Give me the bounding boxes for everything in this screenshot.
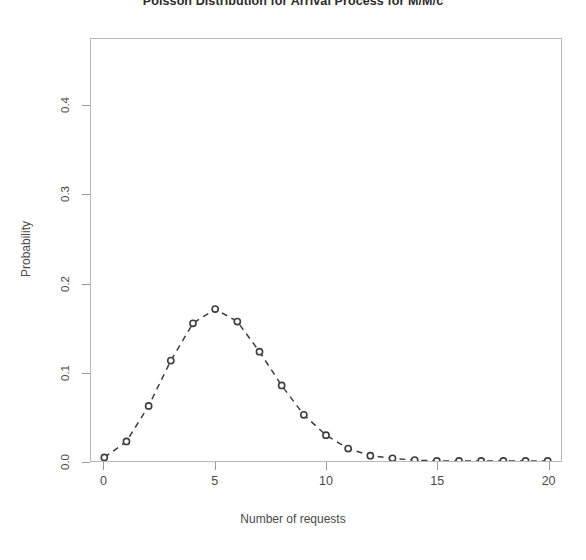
y-axis-tick-mark <box>82 284 90 285</box>
x-axis-tick-mark <box>437 462 438 470</box>
x-axis-tick-mark <box>549 462 550 470</box>
poisson-series-points <box>101 306 551 461</box>
data-point <box>234 318 240 324</box>
y-axis-tick-label: 0.4 <box>52 97 78 113</box>
y-axis-tick-mark <box>82 373 90 374</box>
data-point <box>101 454 107 460</box>
data-point <box>434 458 440 461</box>
x-axis-label: Number of requests <box>0 512 586 526</box>
data-point <box>123 438 129 444</box>
data-point <box>545 458 551 461</box>
x-axis-tick-mark <box>215 462 216 470</box>
data-point <box>301 412 307 418</box>
x-axis-tick-mark <box>103 462 104 470</box>
y-axis-tick-label: 0.3 <box>52 186 78 202</box>
data-point <box>146 403 152 409</box>
poisson-distribution-chart: Poisson Distribution for Arrival Process… <box>0 0 586 560</box>
x-axis-tick-label: 15 <box>417 474 457 488</box>
x-axis-tick-label: 0 <box>83 474 123 488</box>
y-axis-tick-label: 0.2 <box>52 276 78 292</box>
y-axis-tick-mark <box>82 105 90 106</box>
y-axis-label-wrapper: Probability <box>12 0 40 560</box>
y-axis-tick-label: 0.1 <box>52 365 78 381</box>
x-axis-tick-label: 10 <box>306 474 346 488</box>
y-axis-tick-mark <box>82 462 90 463</box>
x-axis-tick-mark <box>326 462 327 470</box>
data-point <box>412 457 418 461</box>
plot-area-svg <box>91 39 561 461</box>
data-point <box>168 358 174 364</box>
x-axis-tick-label: 5 <box>195 474 235 488</box>
data-point <box>500 458 506 461</box>
data-point <box>456 458 462 461</box>
x-axis-tick-label: 20 <box>529 474 569 488</box>
data-point <box>212 306 218 312</box>
y-axis-tick-mark <box>82 194 90 195</box>
y-axis-label: Probability <box>19 149 33 349</box>
data-point <box>522 458 528 461</box>
data-point <box>279 382 285 388</box>
chart-title: Poisson Distribution for Arrival Process… <box>0 0 586 8</box>
data-point <box>190 320 196 326</box>
data-point <box>256 349 262 355</box>
data-point <box>367 453 373 459</box>
data-point <box>345 445 351 451</box>
plot-panel <box>90 38 562 462</box>
data-point <box>389 455 395 461</box>
data-point <box>323 432 329 438</box>
data-point <box>478 458 484 461</box>
y-axis-tick-label: 0.0 <box>52 454 78 470</box>
